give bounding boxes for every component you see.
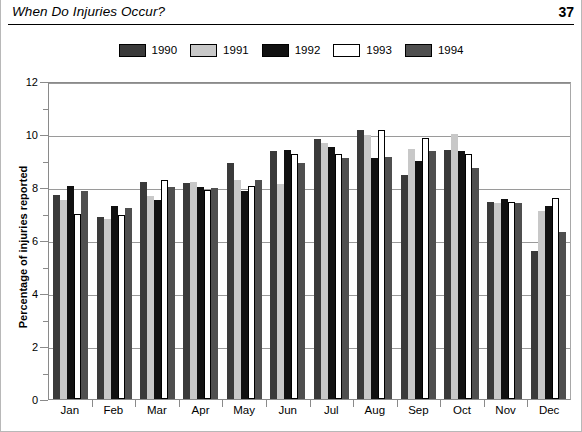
y-tick-label-6: 6 [32,235,38,247]
y-tick-mark-10 [40,135,48,136]
x-tick-label-May: May [222,404,266,416]
y-tick-label-0: 0 [32,394,38,406]
bar-Oct-1990 [444,150,451,399]
bar-Apr-1993 [204,190,211,399]
bar-group-Sep [396,83,439,399]
bar-Feb-1992 [111,206,118,399]
bar-Feb-1994 [125,208,132,399]
bar-group-Dec [527,83,570,399]
y-axis-title: Percentage of injuries reported [17,142,29,352]
bar-Oct-1993 [465,154,472,399]
bar-May-1993 [248,186,255,399]
bar-Mar-1992 [154,200,161,399]
bar-Jul-1990 [314,139,321,399]
bar-group-Apr [179,83,222,399]
bar-Mar-1991 [147,196,154,399]
bar-May-1994 [255,180,262,399]
bar-Aug-1991 [364,135,371,399]
bar-Jul-1993 [335,154,342,399]
y-tick-label-10: 10 [26,129,38,141]
bar-Jan-1993 [74,214,81,400]
bar-group-Mar [136,83,179,399]
x-tick-mark-9 [440,400,441,407]
bar-Sep-1994 [429,151,436,399]
bar-Feb-1990 [97,217,104,399]
chart-area: Percentage of injuries reported 02468101… [0,0,582,432]
bar-Oct-1994 [472,168,479,399]
x-tick-label-Mar: Mar [135,404,179,416]
bar-Apr-1990 [183,183,190,399]
x-tick-mark-4 [222,400,223,407]
bar-Sep-1993 [422,138,429,399]
x-tick-label-Aug: Aug [353,404,397,416]
bar-group-Aug [353,83,396,399]
x-tick-mark-2 [135,400,136,407]
y-tick-label-2: 2 [32,341,38,353]
bar-Jul-1991 [321,143,328,399]
bar-Nov-1991 [494,203,501,399]
y-tick-mark-0 [40,400,48,401]
x-tick-mark-5 [266,400,267,407]
bar-Jun-1992 [284,150,291,399]
x-tick-label-Jul: Jul [309,404,353,416]
bar-Jan-1992 [67,186,74,399]
bar-Jul-1994 [342,158,349,399]
bar-group-Jan [49,83,92,399]
bar-Aug-1990 [357,130,364,399]
bar-Apr-1994 [211,188,218,399]
bar-Oct-1992 [458,151,465,399]
bar-Nov-1990 [487,202,494,399]
bar-Jan-1991 [60,200,67,399]
bar-group-Feb [92,83,135,399]
bar-Sep-1992 [415,161,422,400]
bar-Aug-1992 [371,158,378,399]
bar-Dec-1993 [552,198,559,399]
y-axis: Percentage of injuries reported 02468101… [0,0,48,432]
bar-Dec-1994 [559,232,566,399]
bar-Feb-1991 [104,219,111,399]
bar-group-Oct [440,83,483,399]
bar-May-1992 [241,191,248,399]
bar-series-container [49,83,570,399]
bar-Jun-1990 [270,151,277,399]
x-tick-label-Oct: Oct [440,404,484,416]
bar-Sep-1991 [408,149,415,399]
bar-Jan-1990 [53,195,60,399]
bar-Oct-1991 [451,134,458,399]
bar-Nov-1993 [508,202,515,399]
x-tick-mark-8 [397,400,398,407]
y-tick-label-8: 8 [32,182,38,194]
x-tick-label-Jun: Jun [266,404,310,416]
x-tick-mark-1 [92,400,93,407]
x-tick-label-Apr: Apr [179,404,223,416]
bar-Mar-1990 [140,182,147,399]
bar-Mar-1993 [161,180,168,399]
bar-group-May [223,83,266,399]
x-tick-label-Feb: Feb [92,404,136,416]
bar-Apr-1991 [190,182,197,399]
bar-May-1990 [227,163,234,399]
x-tick-mark-3 [179,400,180,407]
bar-Jan-1994 [81,191,88,399]
y-tick-mark-12 [40,82,48,83]
bar-Jul-1992 [328,147,335,399]
x-tick-label-Nov: Nov [484,404,528,416]
bar-Sep-1990 [401,175,408,399]
y-tick-label-4: 4 [32,288,38,300]
bar-Jun-1994 [298,163,305,399]
y-tick-label-12: 12 [26,76,38,88]
bar-Feb-1993 [118,215,125,399]
bar-Aug-1993 [378,130,385,399]
x-tick-label-Sep: Sep [397,404,441,416]
x-tick-mark-10 [484,400,485,407]
bar-group-Nov [483,83,526,399]
x-tick-label-Dec: Dec [527,404,571,416]
bar-May-1991 [234,180,241,399]
y-tick-mark-2 [40,347,48,348]
bar-group-Jun [266,83,309,399]
bar-Apr-1992 [197,187,204,399]
bar-Jun-1991 [277,184,284,399]
y-tick-mark-4 [40,294,48,295]
y-tick-mark-6 [40,241,48,242]
x-tick-mark-7 [353,400,354,407]
